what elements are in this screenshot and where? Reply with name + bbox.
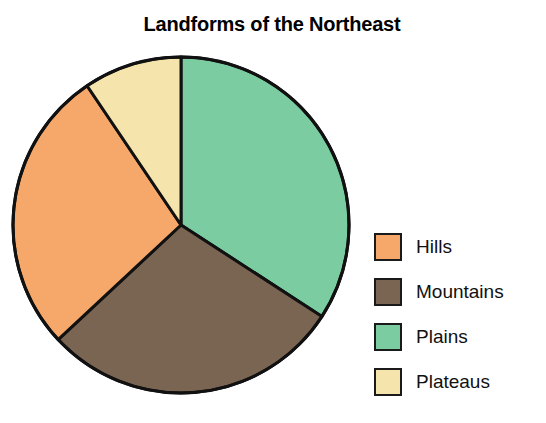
legend-swatch-plains — [374, 323, 402, 351]
legend-item-plains[interactable]: Plains — [374, 314, 546, 359]
chart-title: Landforms of the Northeast — [0, 13, 546, 36]
pie-slice-group — [13, 57, 349, 393]
pie-chart — [0, 40, 370, 415]
legend-label-hills: Hills — [416, 237, 452, 256]
legend-label-plateaus: Plateaus — [416, 372, 490, 391]
chart-canvas: Landforms of the Northeast Hills Mountai… — [0, 0, 546, 423]
legend-item-plateaus[interactable]: Plateaus — [374, 359, 546, 404]
legend-swatch-plateaus — [374, 368, 402, 396]
legend-swatch-hills — [374, 233, 402, 261]
legend-item-hills[interactable]: Hills — [374, 224, 546, 269]
legend-item-mountains[interactable]: Mountains — [374, 269, 546, 314]
legend-label-plains: Plains — [416, 327, 468, 346]
chart-legend: Hills Mountains Plains Plateaus — [374, 224, 546, 404]
legend-label-mountains: Mountains — [416, 282, 504, 301]
chart-title-text: Landforms of the Northeast — [143, 13, 400, 36]
legend-swatch-mountains — [374, 278, 402, 306]
pie-chart-svg — [0, 40, 370, 415]
